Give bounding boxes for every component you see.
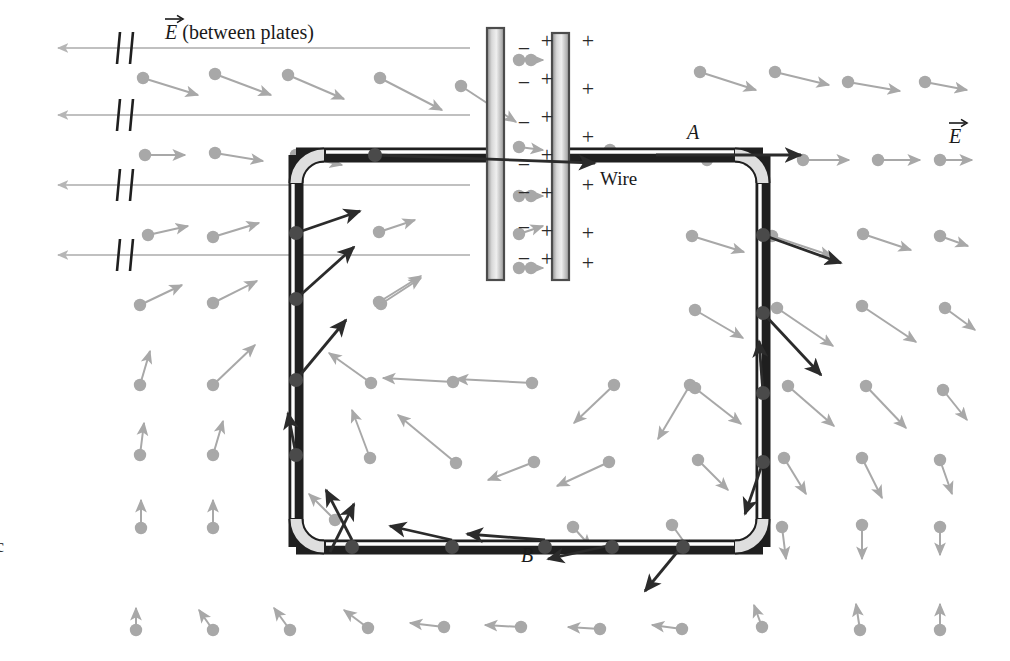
field-vector-shaft	[862, 458, 882, 498]
field-vector	[375, 278, 421, 310]
break-mark-stroke	[130, 169, 133, 201]
field-vector-shaft	[692, 236, 744, 252]
field-vector	[778, 452, 806, 494]
field-vector	[689, 382, 741, 424]
field-vector	[374, 72, 442, 110]
break-mark-stroke	[117, 99, 120, 131]
plate-plus-sign: +	[579, 126, 597, 148]
field-vector-shaft	[848, 82, 900, 91]
field-vector	[207, 421, 223, 461]
vector-e-letter-right: E	[949, 125, 961, 147]
break-mark-stroke	[117, 32, 120, 64]
field-vector	[344, 610, 374, 634]
long-field-line	[58, 169, 470, 201]
field-vector-shaft	[379, 276, 421, 302]
break-mark-stroke	[130, 32, 133, 64]
wire-charge-dot	[368, 148, 382, 162]
vector-arrow-overline-left	[164, 10, 185, 22]
plate-minus-sign: −	[515, 182, 533, 204]
field-vector-shaft	[329, 353, 371, 383]
field-vector	[207, 345, 255, 391]
field-vector-shaft	[777, 308, 833, 346]
field-vector-shaft	[695, 388, 741, 424]
field-vector-shaft	[698, 460, 728, 490]
field-vector-shaft	[215, 74, 271, 95]
field-vector	[207, 500, 219, 534]
field-vector-shaft	[379, 220, 415, 232]
label-wire: Wire	[600, 169, 637, 188]
physics-diagram-svg	[0, 0, 1010, 661]
vector-e-symbol-right: E	[949, 126, 961, 146]
plate-plus-sign: +	[538, 144, 556, 166]
field-vector	[209, 147, 263, 161]
vector-arrow-overline-right	[948, 114, 969, 126]
field-vector	[694, 66, 756, 90]
field-vector	[574, 379, 620, 423]
field-vector	[282, 69, 344, 99]
field-vector	[652, 623, 688, 635]
field-vector	[568, 623, 606, 635]
field-vector	[937, 384, 967, 420]
field-vector-shaft	[288, 75, 344, 99]
field-vector	[329, 353, 377, 389]
field-vector	[934, 521, 946, 555]
field-vector	[689, 304, 743, 338]
vector-e-letter-left: E	[165, 21, 177, 43]
field-vector-shaft	[381, 278, 421, 304]
field-vector-shaft	[574, 385, 614, 423]
field-vector	[797, 154, 849, 166]
plate-minus-sign: −	[515, 38, 533, 60]
field-vector-shaft	[352, 410, 370, 458]
force-arrow	[467, 534, 545, 540]
field-vector-shaft	[700, 72, 756, 90]
field-vector-shaft	[213, 281, 257, 303]
wire-charge-dot	[345, 540, 359, 554]
field-vector	[135, 500, 147, 534]
field-vector-shaft	[140, 351, 150, 385]
plate-plus-sign: +	[579, 222, 597, 244]
force-arrow	[390, 526, 452, 540]
wire-charge-dot	[289, 448, 303, 462]
plate-plus-sign: +	[538, 248, 556, 270]
plate-minus-sign: −	[515, 72, 533, 94]
plate-minus-sign: −	[515, 248, 533, 270]
field-vector-shaft	[143, 78, 198, 95]
wire-charge-dot	[289, 226, 303, 240]
plate-plus-sign: +	[538, 106, 556, 128]
field-vector	[209, 68, 271, 95]
plate-plus-sign: +	[538, 68, 556, 90]
field-vector-shaft	[148, 226, 188, 235]
force-arrow	[763, 235, 841, 263]
field-vector	[692, 454, 728, 490]
figure-canvas: −−−−−−− +++++++ ++++++ E(between plates)…	[0, 0, 1010, 661]
plate-minus-sign: −	[515, 112, 533, 134]
wire-charge-dot	[756, 228, 770, 242]
plate-plus-sign: +	[579, 252, 597, 274]
plate-plus-sign: +	[579, 30, 597, 52]
field-vector	[776, 521, 788, 559]
field-vector-shaft	[695, 310, 743, 338]
field-vector-shaft	[213, 421, 223, 455]
plate-plus-sign: +	[579, 174, 597, 196]
wire-loop	[293, 152, 763, 547]
field-vector-shaft	[772, 236, 832, 256]
between-plates-text: (between plates)	[182, 21, 314, 43]
break-mark-stroke	[117, 239, 120, 271]
plate-minus-sign: −	[515, 154, 533, 176]
field-vector	[383, 376, 459, 388]
field-vector	[919, 76, 967, 90]
label-margin-char: c	[0, 537, 4, 555]
plate-negative-left	[487, 28, 504, 280]
field-vector	[934, 454, 952, 494]
field-vector-shaft	[274, 608, 290, 630]
wire-charge-dot	[756, 455, 770, 469]
field-vector-shaft	[215, 153, 263, 161]
field-vector	[754, 605, 768, 633]
field-vector-shaft	[940, 460, 952, 494]
wire-charge-dots	[289, 148, 770, 554]
field-vector	[274, 608, 296, 636]
field-vector	[142, 226, 188, 241]
field-vector	[771, 302, 833, 346]
plate-plus-sign: +	[579, 78, 597, 100]
force-arrow	[296, 211, 360, 233]
